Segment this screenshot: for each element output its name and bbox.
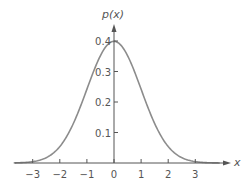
- y-tick-label: 0.2: [95, 97, 111, 108]
- x-tick-label: 0: [111, 169, 117, 180]
- y-axis: 0.10.20.30.4: [95, 24, 118, 163]
- x-tick-label: 3: [192, 169, 198, 180]
- normal-distribution-chart: −3−2−10123 0.10.20.30.4 p(x) x: [0, 0, 249, 187]
- y-axis-arrow-icon: [112, 24, 117, 32]
- y-tick-label: 0.1: [95, 128, 111, 139]
- x-axis-arrow-icon: [223, 161, 231, 166]
- x-tick-label: −2: [52, 169, 67, 180]
- x-tick-label: 2: [165, 169, 171, 180]
- x-tick-label: 1: [138, 169, 144, 180]
- y-tick-label: 0.4: [95, 36, 111, 47]
- y-tick-label: 0.3: [95, 67, 111, 78]
- x-axis-label: x: [233, 156, 241, 169]
- x-tick-label: −3: [25, 169, 40, 180]
- x-tick-label: −1: [80, 169, 95, 180]
- y-axis-label: p(x): [101, 8, 124, 21]
